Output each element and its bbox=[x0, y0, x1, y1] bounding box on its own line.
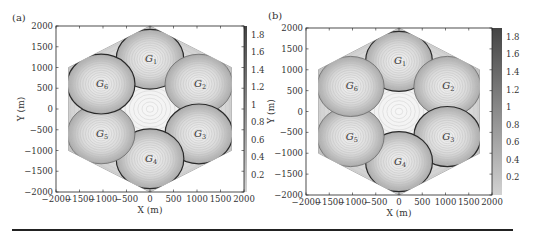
y-tick-label: 2000 bbox=[281, 23, 303, 33]
y-tick-label: −1000 bbox=[274, 148, 303, 158]
x-tick-label: 1500 bbox=[210, 194, 232, 204]
x-tick-label: 2000 bbox=[481, 197, 503, 207]
colorbar-tick-label: 0.2 bbox=[251, 170, 265, 180]
panel-b: 0.20.40.60.811.21.41.61.8G1G2G3G4G5G6−20… bbox=[266, 10, 520, 218]
colorbar-tick-label: 0.8 bbox=[506, 120, 520, 130]
y-tick-label: −1500 bbox=[274, 169, 303, 179]
x-tick-label: 500 bbox=[165, 194, 181, 204]
y-tick-label: −1000 bbox=[24, 146, 53, 156]
colorbar-tick-label: 1.6 bbox=[251, 47, 265, 57]
colorbar-tick-label: 0.6 bbox=[506, 137, 520, 147]
x-axis-label: X (m) bbox=[138, 205, 163, 215]
x-axis-label: X (m) bbox=[387, 208, 412, 218]
y-tick-label: 0 bbox=[298, 107, 303, 117]
x-tick-label: 500 bbox=[414, 197, 430, 207]
y-tick-label: 500 bbox=[37, 83, 53, 93]
colorbar-tick-label: 1.4 bbox=[251, 65, 265, 75]
panel-label: (a) bbox=[12, 12, 26, 23]
colorbar-tick-label: 0.2 bbox=[506, 172, 520, 182]
y-tick-label: −1500 bbox=[24, 166, 53, 176]
x-tick-label: 2000 bbox=[233, 194, 255, 204]
colorbar-tick-label: 0.4 bbox=[506, 155, 520, 165]
y-tick-label: 0 bbox=[48, 104, 53, 114]
x-tick-label: −1000 bbox=[338, 197, 367, 207]
colorbar-tick-label: 1 bbox=[506, 102, 511, 112]
colorbar-tick-label: 1.6 bbox=[506, 49, 520, 59]
colorbar-tick-label: 1.4 bbox=[506, 67, 520, 77]
x-tick-label: −500 bbox=[364, 197, 387, 207]
y-tick-label: 1500 bbox=[31, 42, 53, 52]
colorbar-tick-label: 1.2 bbox=[251, 82, 265, 92]
x-tick-label: 0 bbox=[147, 194, 152, 204]
y-tick-label: −500 bbox=[30, 125, 53, 135]
figure: 0.20.40.60.811.21.41.61.8G1G2G3G4G5G6−20… bbox=[0, 0, 535, 234]
panel-a: 0.20.40.60.811.21.41.61.8G1G2G3G4G5G6−20… bbox=[12, 12, 265, 215]
y-tick-label: −2000 bbox=[274, 190, 303, 200]
colorbar-tick-label: 1.8 bbox=[251, 30, 265, 40]
y-tick-label: −2000 bbox=[24, 187, 53, 197]
y-tick-label: 1000 bbox=[281, 65, 303, 75]
colorbar-tick-label: 1.8 bbox=[506, 32, 520, 42]
y-axis-label: Y (m) bbox=[16, 97, 26, 122]
panel-label: (b) bbox=[268, 10, 282, 21]
y-tick-label: −500 bbox=[280, 127, 303, 137]
y-tick-label: 500 bbox=[287, 86, 303, 96]
y-tick-label: 1500 bbox=[281, 44, 303, 54]
x-tick-label: −1000 bbox=[89, 194, 118, 204]
colorbar-tick-label: 0.6 bbox=[251, 135, 265, 145]
x-tick-label: 0 bbox=[396, 197, 401, 207]
colorbar-tick-label: 1 bbox=[251, 100, 256, 110]
colorbar-tick-label: 0.8 bbox=[251, 117, 265, 127]
y-tick-label: 2000 bbox=[31, 21, 53, 31]
y-tick-label: 1000 bbox=[31, 63, 53, 73]
y-axis-label: Y (m) bbox=[266, 99, 276, 124]
x-tick-label: −500 bbox=[115, 194, 138, 204]
x-tick-label: 1000 bbox=[435, 197, 457, 207]
colorbar-tick-label: 1.2 bbox=[506, 85, 520, 95]
x-tick-label: 1500 bbox=[458, 197, 480, 207]
x-tick-label: 1000 bbox=[186, 194, 208, 204]
colorbar-tick-label: 0.4 bbox=[251, 152, 265, 162]
